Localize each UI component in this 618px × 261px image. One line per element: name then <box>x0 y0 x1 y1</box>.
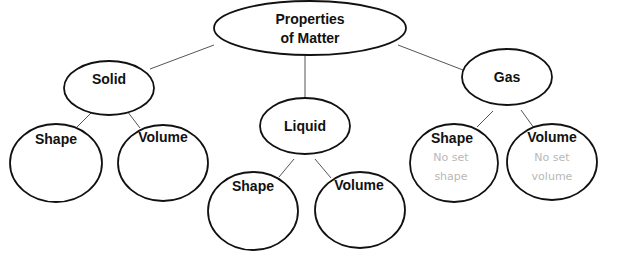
solid-volume-label: Volume <box>138 129 188 145</box>
node-gas-shape: Shape No set shape <box>410 124 498 202</box>
connector-gas-volume <box>521 110 534 128</box>
diagram-canvas: Properties of Matter Solid Shape Volume … <box>0 0 618 261</box>
node-properties-of-matter: Properties of Matter <box>214 1 406 55</box>
gas-volume-note-line2: volume <box>532 170 573 183</box>
connector-solid-volume <box>127 111 140 128</box>
node-solid: Solid <box>64 61 154 115</box>
concept-map: Properties of Matter Solid Shape Volume … <box>0 0 618 261</box>
liquid-volume-label: Volume <box>334 177 384 193</box>
root-label-line2: of Matter <box>280 30 340 46</box>
connector-root-gas <box>398 45 463 70</box>
node-liquid-volume: Volume <box>315 172 405 248</box>
node-liquid-shape: Shape <box>208 172 298 250</box>
gas-volume-label: Volume <box>527 129 577 145</box>
liquid-label: Liquid <box>284 118 326 134</box>
gas-volume-note-line1: No set <box>534 151 570 164</box>
gas-shape-label: Shape <box>431 130 473 146</box>
connector-root-solid <box>150 45 214 69</box>
root-label-line1: Properties <box>275 11 344 27</box>
connector-liquid-volume <box>315 159 331 178</box>
gas-shape-note-line1: No set <box>433 151 469 164</box>
liquid-shape-label: Shape <box>232 178 274 194</box>
solid-shape-label: Shape <box>35 131 77 147</box>
node-liquid: Liquid <box>260 98 350 154</box>
gas-label: Gas <box>494 69 521 85</box>
gas-shape-note-line2: shape <box>434 170 467 183</box>
node-gas: Gas <box>462 49 552 105</box>
node-solid-volume: Volume <box>118 125 208 201</box>
node-solid-shape: Shape <box>10 124 102 202</box>
connector-liquid-shape <box>279 159 294 177</box>
solid-label: Solid <box>92 71 126 87</box>
node-gas-volume: Volume No set volume <box>507 124 597 200</box>
connector-gas-shape <box>477 111 493 127</box>
